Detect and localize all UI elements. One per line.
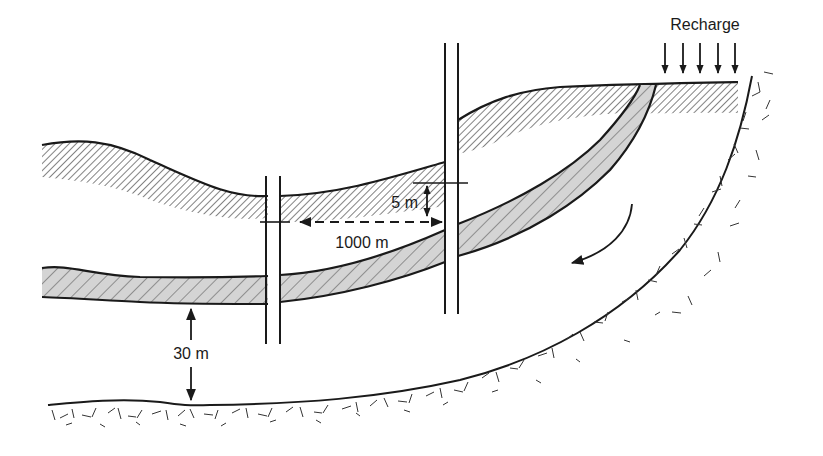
dimension-30m: 30 m	[173, 309, 209, 400]
label-30m: 30 m	[173, 345, 209, 362]
label-1000m: 1000 m	[335, 234, 388, 251]
label-recharge: Recharge	[670, 16, 739, 33]
recharge-arrow-icons	[665, 43, 735, 73]
flow-arrow-icon	[572, 204, 632, 263]
cross-section-diagram: 5 m 1000 m 30 m Recharge	[0, 0, 823, 456]
recharge: Recharge	[665, 16, 740, 73]
label-5m: 5 m	[391, 194, 418, 211]
